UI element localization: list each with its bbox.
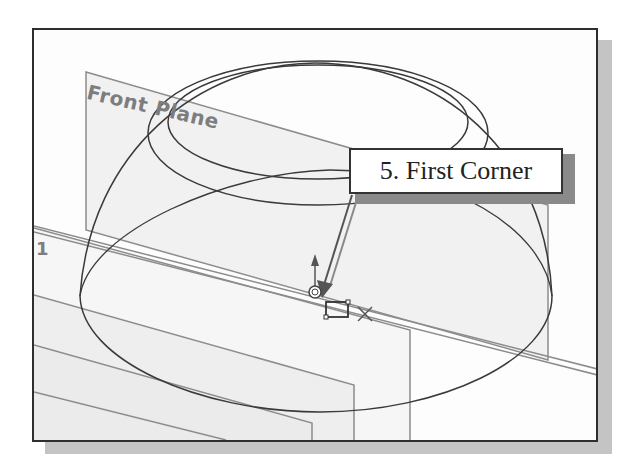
callout-text: 5. First Corner — [380, 156, 532, 186]
step-callout: 5. First Corner — [349, 148, 563, 194]
graphics-viewport[interactable]: Front Plane 1 — [32, 28, 598, 442]
side-plane-label: 1 — [36, 238, 49, 259]
